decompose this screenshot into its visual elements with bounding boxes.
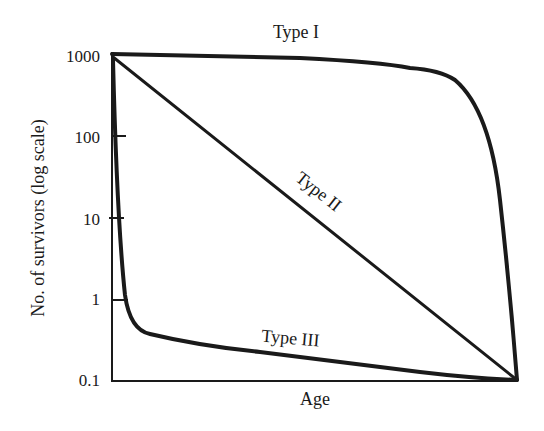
y-tick-label-0.1: 0.1	[79, 371, 100, 390]
label-type-3: Type III	[261, 326, 321, 351]
label-type-1: Type I	[273, 22, 319, 42]
y-tick-label-100: 100	[75, 128, 101, 147]
y-axis-label: No. of survivors (log scale)	[28, 119, 49, 316]
x-axis-label: Age	[300, 389, 330, 409]
y-tick-label-1000: 1000	[66, 47, 100, 66]
y-tick-labels: 1000 100 10 1 0.1	[66, 47, 100, 390]
y-tick-label-10: 10	[83, 210, 100, 229]
survivorship-chart: 1000 100 10 1 0.1 No. of survivors (log …	[0, 0, 544, 431]
y-tick-label-1: 1	[92, 290, 101, 309]
